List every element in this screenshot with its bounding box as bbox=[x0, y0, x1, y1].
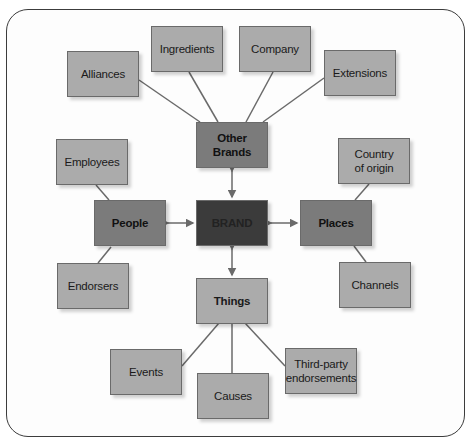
node-people: People bbox=[94, 200, 166, 246]
node-label: Events bbox=[129, 365, 163, 379]
node-company: Company bbox=[239, 26, 311, 72]
node-employees: Employees bbox=[56, 139, 128, 185]
node-alliances: Alliances bbox=[67, 51, 139, 97]
node-country-of-origin: Country of origin bbox=[338, 138, 410, 184]
node-label: Other Brands bbox=[213, 131, 251, 159]
node-label: Channels bbox=[352, 278, 399, 292]
node-ingredients: Ingredients bbox=[151, 26, 223, 72]
node-places: Places bbox=[300, 200, 372, 246]
node-label: Causes bbox=[214, 389, 252, 403]
node-label: Ingredients bbox=[160, 42, 215, 56]
node-label: Third-party endorsements bbox=[286, 357, 356, 385]
node-label: Country of origin bbox=[354, 147, 393, 175]
node-causes: Causes bbox=[197, 373, 269, 419]
node-extensions: Extensions bbox=[324, 50, 396, 96]
node-label: People bbox=[112, 216, 149, 230]
node-label: Endorsers bbox=[68, 279, 119, 293]
node-third-party-endorsements: Third-party endorsements bbox=[285, 348, 357, 394]
node-channels: Channels bbox=[339, 262, 411, 308]
node-label: Places bbox=[318, 216, 353, 230]
node-endorsers: Endorsers bbox=[57, 263, 129, 309]
node-label: Things bbox=[214, 294, 251, 308]
node-label: Company bbox=[251, 42, 299, 56]
node-label: Employees bbox=[64, 155, 119, 169]
node-other-brands: Other Brands bbox=[196, 122, 268, 168]
node-events: Events bbox=[110, 349, 182, 395]
node-things: Things bbox=[196, 278, 268, 324]
node-brand: BRAND bbox=[196, 200, 268, 246]
node-label: Extensions bbox=[333, 66, 387, 80]
node-label: BRAND bbox=[212, 216, 253, 230]
node-label: Alliances bbox=[81, 67, 125, 81]
